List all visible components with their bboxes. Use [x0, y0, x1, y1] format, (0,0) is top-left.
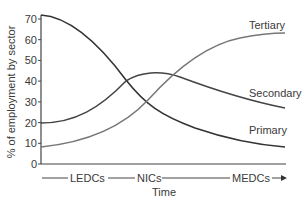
- y-tick-label: 10: [25, 137, 37, 149]
- stage-axis: LEDCs NICs MEDCs: [42, 172, 287, 184]
- stage-ledcs: LEDCs: [70, 172, 105, 184]
- chart-svg: % of employment by sector 0 10 20 30 40 …: [0, 0, 307, 199]
- y-tick-label: 40: [25, 75, 37, 87]
- tertiary-label: Tertiary: [249, 19, 286, 31]
- secondary-label: Secondary: [249, 87, 302, 99]
- y-tick-label: 0: [31, 158, 37, 170]
- y-axis-label: % of employment by sector: [5, 25, 17, 158]
- stage-medcs: MEDCs: [232, 172, 270, 184]
- y-tick-label: 60: [25, 34, 37, 46]
- y-tick-label: 30: [25, 96, 37, 108]
- employment-sector-chart: % of employment by sector 0 10 20 30 40 …: [0, 0, 307, 199]
- primary-label: Primary: [249, 124, 287, 136]
- y-tick-label: 50: [25, 54, 37, 66]
- y-ticks: 0 10 20 30 40 50 60 70: [25, 13, 41, 170]
- arrow-right-icon: [281, 175, 287, 181]
- stage-nics: NICs: [137, 172, 162, 184]
- y-tick-label: 20: [25, 117, 37, 129]
- x-axis-label: Time: [152, 186, 176, 198]
- y-tick-label: 70: [25, 13, 37, 25]
